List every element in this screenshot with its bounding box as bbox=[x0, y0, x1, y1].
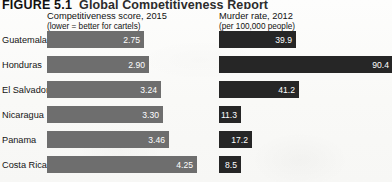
competitiveness-value: 3.46 bbox=[148, 135, 165, 145]
chart-row: Panama3.4617.2 bbox=[0, 131, 392, 148]
country-label: Honduras bbox=[2, 60, 42, 70]
chart-row: El Salvador3.2441.2 bbox=[0, 81, 392, 98]
murder-rate-value: 8.5 bbox=[225, 160, 237, 170]
country-label: Guatemala bbox=[2, 35, 47, 45]
competitiveness-bar: 3.30 bbox=[47, 106, 163, 123]
country-label: El Salvador bbox=[2, 85, 49, 95]
chart-row: Nicaragua3.3011.3 bbox=[0, 106, 392, 123]
competitiveness-value: 2.75 bbox=[123, 35, 140, 45]
competitiveness-bar: 2.90 bbox=[47, 56, 149, 73]
murder-rate-bar: 90.4 bbox=[219, 56, 392, 73]
chart-row: Guatemala2.7539.9 bbox=[0, 31, 392, 48]
figure-container: FIGURE 5.1Global Competitiveness Report … bbox=[0, 0, 392, 182]
competitiveness-bar: 2.75 bbox=[47, 31, 144, 48]
murder-rate-bar: 17.2 bbox=[219, 131, 252, 148]
competitiveness-value: 3.30 bbox=[142, 110, 159, 120]
competitiveness-bar: 4.25 bbox=[47, 156, 197, 173]
competitiveness-bar: 3.46 bbox=[47, 131, 169, 148]
competitiveness-bar: 3.24 bbox=[47, 81, 161, 98]
murder-rate-bar: 39.9 bbox=[219, 31, 296, 48]
murder-rate-value: 39.9 bbox=[275, 35, 292, 45]
chart-row: Honduras2.9090.4 bbox=[0, 56, 392, 73]
murder-rate-value: 17.2 bbox=[231, 135, 248, 145]
country-label: Nicaragua bbox=[2, 110, 44, 120]
chart-rows: Guatemala2.7539.9Honduras2.9090.4El Salv… bbox=[0, 0, 392, 182]
murder-rate-value: 90.4 bbox=[372, 60, 389, 70]
competitiveness-value: 2.90 bbox=[128, 60, 145, 70]
country-label: Panama bbox=[2, 135, 36, 145]
competitiveness-value: 4.25 bbox=[176, 160, 193, 170]
competitiveness-value: 3.24 bbox=[140, 85, 157, 95]
country-label: Costa Rica bbox=[2, 160, 47, 170]
murder-rate-bar: 11.3 bbox=[219, 106, 241, 123]
chart-row: Costa Rica4.258.5 bbox=[0, 156, 392, 173]
murder-rate-value: 41.2 bbox=[278, 85, 295, 95]
murder-rate-bar: 8.5 bbox=[219, 156, 241, 173]
murder-rate-bar: 41.2 bbox=[219, 81, 299, 98]
murder-rate-value: 11.3 bbox=[221, 110, 237, 120]
